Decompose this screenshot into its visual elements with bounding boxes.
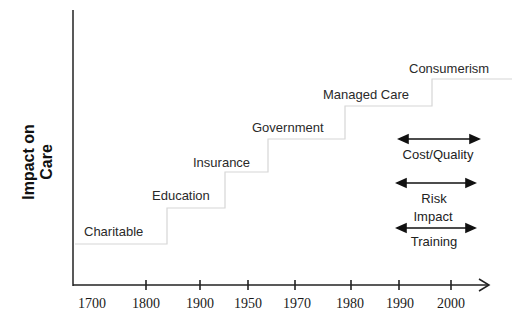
arrow-label-cost-quality: Cost/Quality	[403, 148, 474, 161]
tick-label-1900: 1900	[186, 297, 214, 311]
diagram-canvas	[0, 0, 520, 325]
step-label-managed-care: Managed Care	[323, 88, 409, 101]
step-label-insurance: Insurance	[193, 156, 250, 169]
y-axis-label-line2: Care	[38, 124, 56, 200]
arrow-label-training: Training	[411, 235, 457, 248]
y-axis-label: Impact on Care	[8, 112, 68, 212]
y-axis-label-line1: Impact on	[20, 124, 38, 200]
tick-label-1980: 1980	[336, 297, 364, 311]
tick-label-1950: 1950	[234, 297, 262, 311]
step-label-education: Education	[152, 189, 210, 202]
step-label-charitable: Charitable	[84, 225, 143, 238]
arrow-label-impact: Impact	[413, 210, 452, 223]
tick-label-1970: 1970	[283, 297, 311, 311]
tick-label-1800: 1800	[132, 297, 160, 311]
step-label-consumerism: Consumerism	[409, 62, 489, 75]
tick-label-1700: 1700	[78, 297, 106, 311]
tick-label-2000: 2000	[437, 297, 465, 311]
arrow-label-risk: Risk	[421, 192, 446, 205]
tick-label-1990: 1990	[386, 297, 414, 311]
step-label-government: Government	[252, 121, 324, 134]
